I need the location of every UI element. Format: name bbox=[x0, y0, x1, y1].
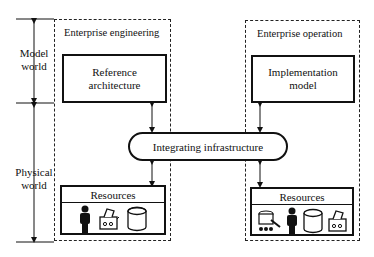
model-world-label: Model world bbox=[10, 47, 58, 73]
reference-architecture-label: Reference architecture bbox=[82, 66, 147, 92]
left-resources-box: Resources bbox=[60, 185, 166, 235]
enterprise-engineering-title: Enterprise engineering bbox=[64, 27, 159, 38]
machine-icon bbox=[327, 209, 349, 233]
reference-architecture-box: Reference architecture bbox=[62, 54, 167, 103]
integrating-infrastructure-label: Integrating infrastructure bbox=[153, 141, 263, 153]
database-icon bbox=[126, 206, 148, 232]
robot-vehicle-icon bbox=[256, 208, 282, 234]
implementation-model-label: Implementation model bbox=[265, 66, 341, 92]
enterprise-operation-title: Enterprise operation bbox=[257, 28, 342, 39]
right-resources-label: Resources bbox=[252, 189, 352, 205]
implementation-model-box: Implementation model bbox=[251, 55, 355, 103]
person-icon bbox=[285, 207, 299, 235]
integrating-infrastructure-pill: Integrating infrastructure bbox=[128, 132, 288, 161]
database-icon bbox=[302, 208, 324, 234]
left-resources-label: Resources bbox=[62, 187, 164, 203]
right-resources-box: Resources bbox=[250, 187, 354, 236]
machine-icon bbox=[98, 207, 120, 231]
person-icon bbox=[78, 205, 92, 233]
